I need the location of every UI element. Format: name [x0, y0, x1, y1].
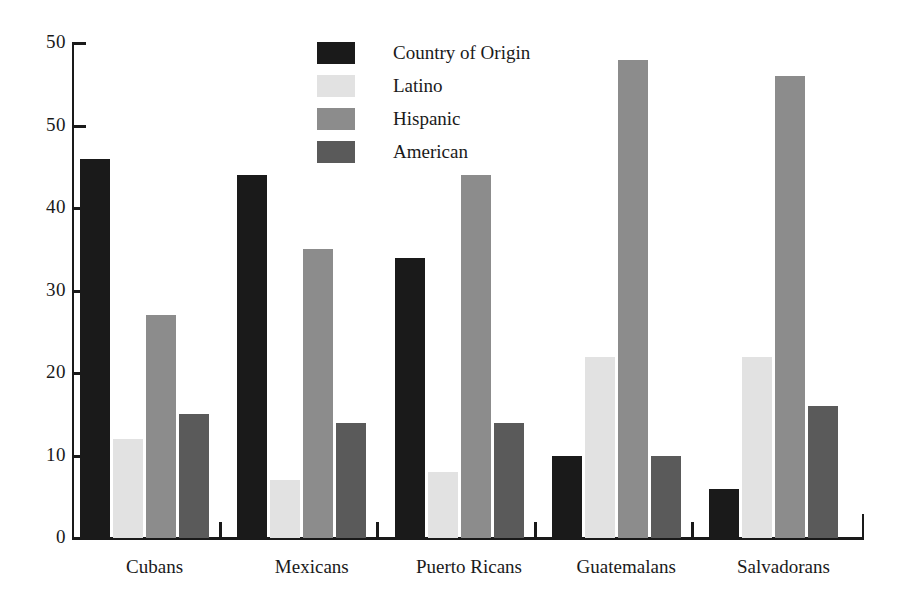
x-axis-group-label: Mexicans [233, 556, 390, 578]
legend-swatch-icon [317, 108, 355, 130]
bar [428, 472, 458, 538]
x-axis-group-label: Cubans [76, 556, 233, 578]
bar [742, 357, 772, 539]
x-axis-group-label: Salvadorans [705, 556, 862, 578]
bar [494, 423, 524, 539]
x-axis-group-label: Guatemalans [548, 556, 705, 578]
legend-item: Hispanic [317, 102, 530, 135]
bar [270, 480, 300, 538]
bar [709, 489, 739, 539]
legend-swatch-icon [317, 141, 355, 163]
bar [303, 249, 333, 538]
legend-label: American [393, 141, 468, 163]
bar [80, 159, 110, 539]
bar [336, 423, 366, 539]
chart-legend: Country of OriginLatinoHispanicAmerican [317, 36, 530, 168]
legend-item: Latino [317, 69, 530, 102]
bar [651, 456, 681, 539]
x-axis-group-label: Puerto Ricans [390, 556, 547, 578]
bar [808, 406, 838, 538]
bar [618, 60, 648, 539]
legend-label: Latino [393, 75, 443, 97]
legend-swatch-icon [317, 75, 355, 97]
bar [395, 258, 425, 539]
legend-label: Hispanic [393, 108, 461, 130]
bar [775, 76, 805, 538]
bar [146, 315, 176, 538]
bar [113, 439, 143, 538]
legend-swatch-icon [317, 42, 355, 64]
legend-item: American [317, 135, 530, 168]
bar [552, 456, 582, 539]
bar [237, 175, 267, 538]
bar-chart: 5050403020100 CubansMexicansPuerto Rican… [0, 0, 910, 610]
bar [179, 414, 209, 538]
bar [461, 175, 491, 538]
legend-label: Country of Origin [393, 42, 530, 64]
legend-item: Country of Origin [317, 36, 530, 69]
bar [585, 357, 615, 539]
